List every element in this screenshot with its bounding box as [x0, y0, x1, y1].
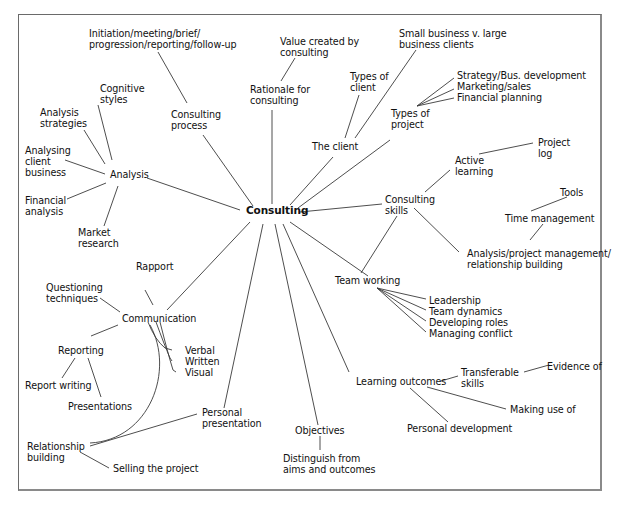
node-financial-analysis: Financial analysis [25, 195, 66, 217]
node-personal-presentation: Personal presentation [202, 407, 262, 429]
node-written: Written [185, 356, 219, 367]
node-reporting: Reporting [58, 345, 104, 356]
node-presentations: Presentations [68, 401, 132, 412]
node-developing-roles: Developing roles [429, 317, 508, 328]
node-initiation: Initiation/meeting/brief/ progression/re… [89, 28, 236, 50]
node-types-of-project: Types of project [391, 108, 430, 130]
node-time-management: Time management [505, 213, 594, 224]
node-report-writing: Report writing [25, 380, 92, 391]
node-consulting-skills: Consulting skills [385, 194, 435, 216]
node-analysis-pm: Analysis/project management/ relationshi… [467, 248, 611, 270]
node-team-working: Team working [335, 275, 400, 286]
node-cognitive-styles: Cognitive styles [100, 83, 145, 105]
node-managing-conflict: Managing conflict [429, 328, 512, 339]
node-selling-project: Selling the project [113, 463, 198, 474]
node-questioning: Questioning techniques [46, 282, 103, 304]
node-objectives: Objectives [295, 425, 345, 436]
node-learning-outcomes: Learning outcomes [356, 376, 446, 387]
node-analysis: Analysis [110, 169, 149, 180]
node-personal-development: Personal development [407, 423, 512, 434]
node-consulting-process: Consulting process [171, 109, 221, 131]
node-analysis-strategies: Analysis strategies [40, 107, 87, 129]
node-verbal: Verbal [185, 345, 215, 356]
node-the-client: The client [312, 141, 358, 152]
node-marketing: Marketing/sales [457, 81, 531, 92]
node-analysing-client: Analysing client business [25, 145, 71, 178]
node-communication: Communication [122, 313, 196, 324]
node-strategy: Strategy/Bus. development [457, 70, 586, 81]
node-value-created: Value created by consulting [280, 36, 359, 58]
node-rapport: Rapport [136, 261, 173, 272]
node-relationship-building: Relationship building [27, 441, 85, 463]
node-financial-planning: Financial planning [457, 92, 542, 103]
node-market-research: Market research [78, 227, 119, 249]
node-consulting: Consulting [246, 205, 308, 216]
node-team-dynamics: Team dynamics [429, 306, 502, 317]
node-distinguish: Distinguish from aims and outcomes [283, 453, 375, 475]
node-rationale: Rationale for consulting [250, 84, 310, 106]
node-evidence-of: Evidence of [547, 361, 602, 372]
node-active-learning: Active learning [455, 155, 493, 177]
node-small-vs-large: Small business v. large business clients [399, 28, 507, 50]
node-visual: Visual [185, 367, 213, 378]
node-types-of-client: Types of client [350, 71, 389, 93]
node-transferable-skills: Transferable skills [461, 367, 519, 389]
node-making-use-of: Making use of [510, 404, 576, 415]
node-tools: Tools [560, 187, 583, 198]
node-leadership: Leadership [429, 295, 481, 306]
node-project-log: Project log [538, 137, 570, 159]
